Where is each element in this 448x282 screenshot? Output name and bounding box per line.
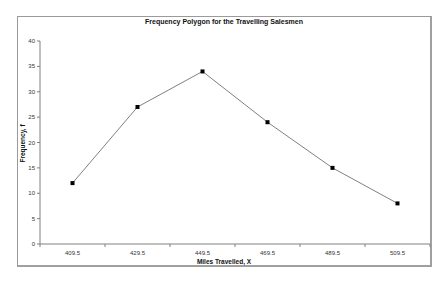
x-tick-label: 489.5 [325,250,341,256]
y-tick-label: 15 [28,165,35,171]
data-point-marker [136,105,140,109]
x-tick-label: 449.5 [195,250,211,256]
x-tick-label: 509.5 [390,250,406,256]
y-tick-label: 0 [32,241,36,247]
data-point-marker [71,181,75,185]
y-tick-label: 20 [28,140,35,146]
y-tick-label: 40 [28,38,35,44]
y-tick-label: 30 [28,89,35,95]
data-point-marker [201,69,205,73]
data-line [73,71,398,203]
x-tick-label: 409.5 [65,250,81,256]
y-tick-label: 35 [28,63,35,69]
y-tick-label: 25 [28,114,35,120]
y-tick-label: 5 [32,216,36,222]
data-point-marker [331,166,335,170]
data-point-marker [396,201,400,205]
x-tick-label: 469.5 [260,250,276,256]
y-tick-label: 10 [28,190,35,196]
x-tick-label: 429.5 [130,250,146,256]
plot-area: 0510152025303540409.5429.5449.5469.5489.… [0,0,448,282]
data-point-marker [266,120,270,124]
